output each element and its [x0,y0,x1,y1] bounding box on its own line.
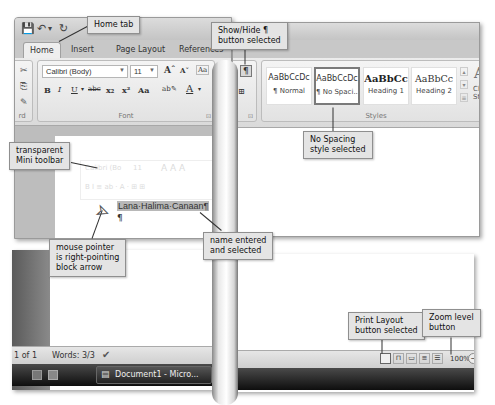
mini-format-buttons[interactable]: B I ≡ ab · A · ⊞ ⊞ [85,183,145,191]
callout-text: button selected [355,326,418,336]
print-layout-button[interactable] [380,353,391,364]
full-screen-reading-button[interactable]: ⊓ [393,353,404,364]
callout-arrow [382,340,383,354]
proofing-icon[interactable]: ✔ [102,349,110,360]
callout-text: No Spacing [310,135,366,145]
cut-icon[interactable]: ✂ [20,65,28,75]
style-sample: AaBbCc [412,73,456,84]
tab-insert[interactable]: Insert [65,42,100,58]
show-hide-button[interactable]: ¶ [240,65,252,77]
styles-group-label: Styles [262,112,480,120]
strikethrough-button[interactable]: abc [88,85,101,93]
mini-toolbar[interactable]: Calibri (Bo 11 A A A B I ≡ ab · A · ⊞ ⊞ [80,160,220,200]
font-size-dropdown[interactable]: 11 ▼ [130,65,158,78]
copy-icon[interactable]: ⎘ [20,81,27,92]
zoom-level-button[interactable]: 100% [450,355,470,363]
style-name: ¶ No Spaci... [316,88,358,96]
change-styles-icon[interactable]: A [474,65,480,81]
font-color-button[interactable]: A [186,83,193,94]
callout-text: Mini toolbar [16,156,63,166]
clipboard-group-label: rd [14,112,32,120]
word-document-icon: ▤ [101,369,110,379]
styles-scroll-down-icon[interactable]: ▾ [460,80,468,89]
callout-mini-toolbar: transparent Mini toolbar [9,142,70,170]
italic-button[interactable]: I [58,85,61,94]
font-name-dropdown[interactable]: Calibri (Body) ▼ [42,65,128,78]
font-dialog-launcher-icon[interactable]: ⊡ [206,112,211,119]
switch-windows-icon[interactable] [48,370,58,380]
mini-grow-font-icon[interactable]: A A A [161,163,185,173]
outline-button[interactable]: ≡ [419,353,430,364]
callout-text: Home tab [94,20,133,29]
callout-arrow [333,108,334,132]
tab-page-layout[interactable]: Page Layout [110,42,171,58]
status-bar: 1 of 1 Words: 3/3 ✔ [12,346,222,364]
change-case-button[interactable]: Aa [138,85,149,95]
style-heading-1[interactable]: AaBbCc Heading 1 [363,67,409,105]
zoom-out-button[interactable]: − [468,353,474,364]
word-count[interactable]: Words: 3/3 [52,351,95,360]
style-heading-2[interactable]: AaBbCc Heading 2 [411,67,457,105]
paragraph-dialog-launcher-icon[interactable]: ⊡ [248,112,253,119]
callout-text: and selected [210,246,266,256]
web-layout-button[interactable]: ▭ [406,353,417,364]
style-name: ¶ Normal [267,87,311,95]
underline-button[interactable]: U [71,85,78,94]
callout-text: is right-pointing [56,253,119,263]
clipboard-group: ✂ ⎘ ✎ rd [14,60,33,122]
chevron-down-icon: ▼ [119,67,125,73]
borders-button[interactable]: ⊞ [238,87,245,96]
callout-home-tab: Home tab [87,16,140,34]
taskbar-document-button[interactable]: ▤ Document1 - Micro... [96,366,212,384]
style-name: Heading 1 [364,87,408,95]
callout-mouse-pointer: mouse pointer is right-pointing block ar… [49,239,126,277]
draft-button[interactable]: ☰ [432,353,443,364]
callout-text: Print Layout [355,316,418,326]
subscript-button[interactable]: x₂ [106,85,114,95]
ribbon-right: ¶ ⊞ ⊡ AaBbCcDc ¶ Normal AaBbCcDc ¶ No Sp… [233,58,479,128]
undo-icon[interactable]: ↶ [37,22,46,35]
callout-no-spacing: No Spacing style selected [303,131,373,159]
undo-dropdown-icon[interactable]: ▾ [48,24,52,33]
superscript-button[interactable]: x² [122,85,130,95]
callout-arrow [451,338,452,355]
redo-icon[interactable]: ↻ [59,22,68,35]
style-normal[interactable]: AaBbCcDc ¶ Normal [266,67,312,105]
selected-name-text[interactable]: Lana·Halima·Canaan¶ [117,201,209,211]
save-icon[interactable]: 💾 [21,22,35,35]
callout-text: transparent [16,146,63,156]
style-no-spacing[interactable]: AaBbCcDc ¶ No Spaci... [314,67,360,105]
status-bar-right: ⊓ ▭ ≡ ☰ 100% − [232,350,474,368]
show-desktop-icon[interactable] [32,370,42,380]
format-painter-icon[interactable]: ✎ [20,97,28,107]
font-group-label: Font [38,112,214,120]
styles-group: AaBbCcDc ¶ Normal AaBbCcDc ¶ No Spaci...… [261,60,480,122]
style-name: Heading 2 [412,87,456,95]
tab-home[interactable]: Home [23,42,61,58]
word-window-top-right: ¶ ⊞ ⊡ AaBbCcDc ¶ Normal AaBbCcDc ¶ No Sp… [232,22,480,237]
font-name-value: Calibri (Body) [46,67,91,76]
taskbar-document-label: Document1 - Micro... [115,370,199,379]
styles-scroll-up-icon[interactable]: ▴ [460,67,468,76]
bold-button[interactable]: B [44,85,51,95]
change-styles-button[interactable]: Change Styles [473,85,480,101]
callout-text: name entered [210,236,266,246]
highlight-button[interactable]: ab✎ [162,85,177,93]
callout-print-layout: Print Layout button selected [348,312,425,340]
callout-text: button selected [218,36,281,46]
underline-dropdown-icon[interactable]: ▾ [81,85,84,92]
callout-zoom-level: Zoom level button [422,309,481,337]
clear-formatting-button[interactable]: Aa [196,65,209,75]
paragraph-mark: ¶ [117,213,123,223]
mini-font-size[interactable]: 11 [133,164,142,172]
shrink-font-button[interactable]: Aˇ [180,66,189,75]
font-size-value: 11 [134,67,142,76]
taskbar: ▤ Document1 - Micro... [12,364,222,386]
page-count[interactable]: 1 of 1 [14,351,37,360]
callout-text: Zoom level [429,313,474,323]
grow-font-button[interactable]: Aˆ [164,65,175,75]
ribbon: ✂ ⎘ ✎ rd Calibri (Body) ▼ 11 ▼ Aˆ Aˇ Aa … [15,58,231,126]
styles-more-icon[interactable]: ≡ [460,93,468,102]
ribbon-tabs: Home Insert Page Layout References [15,40,231,58]
font-color-dropdown-icon[interactable]: ▾ [198,85,201,92]
